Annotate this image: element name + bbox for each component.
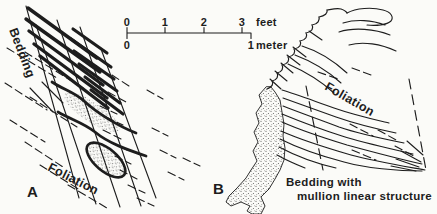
scale-meter-tick-0: 0 <box>124 39 130 51</box>
scale-bar-line <box>127 28 251 39</box>
boudin-lower <box>81 136 131 183</box>
panel-b: Foliation Bedding with mullion linear st… <box>213 8 432 214</box>
scale-feet-tick-0: 0 <box>124 16 130 28</box>
scale-feet-tick-1: 1 <box>162 16 168 28</box>
panel-a: Bedding Foliation A <box>5 6 200 208</box>
fold-nose <box>339 8 396 51</box>
scale-meter-unit: meter <box>256 39 288 51</box>
figure-canvas: 0 1 2 3 feet 0 1 meter Bedding Foliation… <box>0 0 437 214</box>
scale-feet-tick-3: 3 <box>239 16 245 28</box>
panel-b-label: B <box>213 180 224 197</box>
caption-line-2: mullion linear structure <box>297 190 432 202</box>
outcrop-band <box>226 87 285 214</box>
scale-bar: 0 1 2 3 feet 0 1 meter <box>124 16 288 52</box>
scale-feet-tick-2: 2 <box>201 16 207 28</box>
scale-meter-tick-1: 1 <box>248 39 254 51</box>
scale-feet-unit: feet <box>256 16 277 28</box>
caption-line-1: Bedding with <box>286 176 362 188</box>
foliation-label-a: Foliation <box>46 160 101 197</box>
geology-figure: 0 1 2 3 feet 0 1 meter Bedding Foliation… <box>0 0 437 214</box>
panel-a-label: A <box>27 183 38 200</box>
